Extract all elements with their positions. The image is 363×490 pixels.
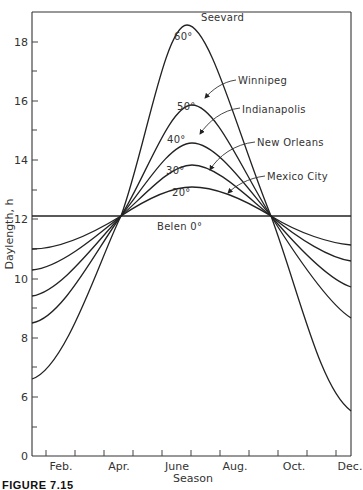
label-indianapolis: Indianapolis <box>242 104 306 115</box>
arrow-winnipeg <box>205 80 236 98</box>
x-tick-label: Apr. <box>108 460 130 473</box>
label-seevard: Seevard <box>201 12 244 23</box>
x-ticks <box>46 450 336 456</box>
y-tick-label: 0 <box>21 450 28 463</box>
plot-frame <box>32 12 351 456</box>
latitude-label-60: 60° <box>174 31 193 42</box>
x-tick-label: Aug. <box>223 460 248 473</box>
y-axis-label: Daylength, h <box>3 199 16 270</box>
y-tick-labels: 18 16 14 12 10 8 6 0 <box>14 36 28 463</box>
label-winnipeg: Winnipeg <box>238 75 287 86</box>
latitude-label-20: 20° <box>172 187 191 198</box>
series-line-seevard <box>32 25 351 411</box>
x-axis-label: Season <box>173 472 213 485</box>
figure-caption: FIGURE 7.15 <box>2 479 74 490</box>
y-ticks <box>32 42 38 427</box>
latitude-label-40: 40° <box>167 134 186 145</box>
x-tick-label: Feb. <box>50 460 73 473</box>
y-tick-label: 12 <box>14 213 28 226</box>
x-tick-label: Oct. <box>283 460 306 473</box>
y-tick-label: 14 <box>14 154 28 167</box>
latitude-labels: 60° 50° 40° 30° 20° <box>166 31 196 198</box>
label-mexico-city: Mexico City <box>267 171 328 182</box>
y-tick-label: 10 <box>14 273 28 286</box>
label-belen: Belen 0° <box>157 221 202 232</box>
series-curves <box>32 25 351 411</box>
x-tick-label: Dec. <box>338 460 363 473</box>
y-tick-label: 16 <box>14 95 28 108</box>
latitude-label-50: 50° <box>177 101 196 112</box>
series-line-indianapolis <box>32 143 351 296</box>
daylength-chart: 18 16 14 12 10 8 6 0 Daylength, h Feb. A… <box>0 0 363 490</box>
y-tick-label: 8 <box>21 332 28 345</box>
series-labels: Seevard Winnipeg Indianapolis New Orlean… <box>157 12 328 232</box>
latitude-label-30: 30° <box>166 165 185 176</box>
y-tick-label: 6 <box>21 391 28 404</box>
y-tick-label: 18 <box>14 36 28 49</box>
label-new-orleans: New Orleans <box>257 137 324 148</box>
